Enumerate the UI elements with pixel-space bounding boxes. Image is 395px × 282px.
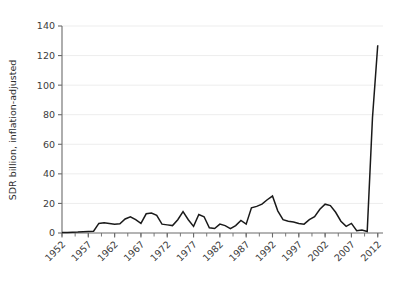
y-tick-label: 120 (37, 50, 55, 61)
x-tick-label: 1957 (69, 239, 94, 264)
y-axis: 020406080100120140 (37, 20, 62, 238)
x-tick-label: 1972 (148, 239, 173, 264)
data-series (62, 45, 378, 232)
x-tick-label: 1967 (121, 239, 146, 264)
y-tick-label: 80 (43, 109, 55, 120)
x-tick-label: 1952 (43, 239, 68, 264)
x-axis: 1952195719621967197219771982198719921997… (43, 233, 384, 264)
x-tick-label: 2002 (306, 239, 331, 264)
x-tick-label: 1962 (95, 239, 120, 264)
y-tick-label: 40 (43, 168, 55, 179)
x-tick-label: 1982 (200, 239, 225, 264)
y-tick-label: 60 (43, 139, 55, 150)
x-tick-label: 1997 (279, 239, 304, 264)
x-tick-label: 2012 (358, 239, 383, 264)
series-line (62, 45, 378, 232)
y-tick-label: 140 (37, 20, 55, 31)
y-tick-label: 0 (49, 227, 55, 238)
y-axis-title: SDR billion, inflation-adjusted (7, 60, 18, 201)
x-tick-label: 2007 (332, 239, 357, 264)
x-tick-label: 1977 (174, 239, 199, 264)
x-tick-label: 1987 (227, 239, 252, 264)
line-chart: 020406080100120140 195219571962196719721… (0, 0, 395, 282)
y-tick-label: 20 (43, 198, 55, 209)
x-tick-label: 1992 (253, 239, 278, 264)
chart-figure: 020406080100120140 195219571962196719721… (0, 0, 395, 282)
gridlines (62, 26, 383, 203)
y-tick-label: 100 (37, 80, 55, 91)
